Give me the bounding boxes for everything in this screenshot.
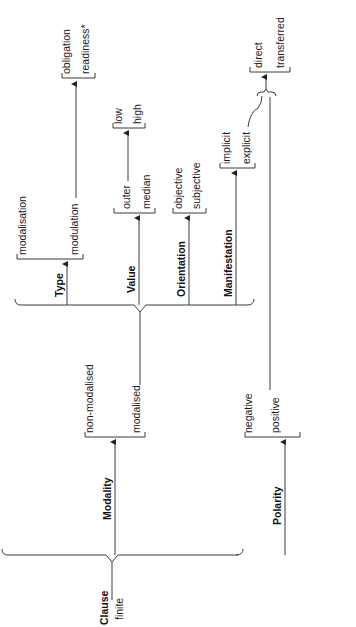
conjunction-brace [257, 89, 276, 96]
system-polarity: Polarity negative positive [242, 97, 300, 555]
modalised-brace [15, 299, 254, 312]
system-value: Value outer median low high [112, 104, 155, 305]
option-low: low [112, 108, 124, 124]
entry-condition: Clause finite [98, 562, 125, 625]
option-non-modalised: non-modalised [83, 364, 95, 433]
system-manifestation: Manifestation implicit explicit [220, 96, 262, 305]
option-negative: negative [242, 393, 254, 433]
modality-label: Modality [101, 477, 113, 520]
option-positive: positive [269, 397, 281, 433]
option-modalised: modalised [130, 385, 142, 433]
entry-label-finite: finite [113, 598, 125, 620]
option-modalisation: modalisation [16, 196, 28, 255]
entry-label-clause: Clause [98, 590, 110, 625]
orientation-label: Orientation [175, 241, 187, 297]
option-median: median [140, 174, 152, 209]
option-direct: direct [252, 42, 264, 68]
option-high: high [131, 104, 143, 124]
system-explicit-negative: direct transferred [250, 17, 290, 96]
system-orientation: Orientation objective subjective [172, 162, 206, 305]
type-label: Type [53, 273, 65, 297]
option-transferred: transferred [274, 17, 286, 68]
system-type: Type modalisation modulation obligation … [16, 24, 95, 305]
system-network-diagram: Clause finite Modality non-modalised mod… [0, 0, 356, 627]
option-readiness: readiness* [79, 24, 91, 74]
option-explicit: explicit [240, 132, 252, 164]
option-subjective: subjective [190, 162, 202, 209]
option-outer: outer [120, 185, 132, 209]
option-objective: objective [172, 167, 184, 209]
system-modality: Modality non-modalised modalised [83, 312, 145, 555]
option-modulation: modulation [68, 203, 80, 255]
explicit-connector [248, 96, 262, 127]
polarity-label: Polarity [271, 486, 283, 525]
manifestation-label: Manifestation [222, 229, 234, 297]
option-implicit: implicit [220, 132, 232, 164]
value-label: Value [125, 265, 137, 293]
main-brace [2, 549, 243, 562]
option-obligation: obligation [60, 29, 72, 74]
